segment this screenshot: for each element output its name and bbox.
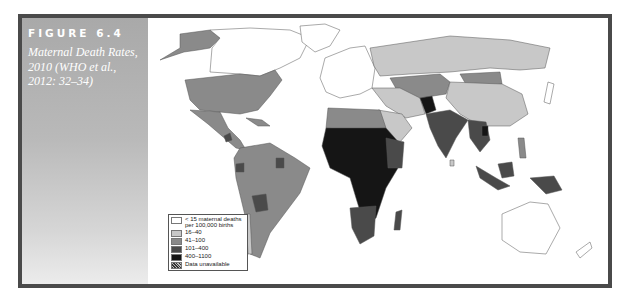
figure-caption: Maternal Death Rates, 2010 (WHO et al., … (28, 45, 146, 89)
region-caribbean (246, 118, 270, 126)
region-ecuador (236, 163, 244, 172)
region-sri-lanka (450, 160, 454, 166)
region-canada (210, 28, 310, 76)
legend-label: 400–1100 (185, 253, 211, 259)
region-madagascar (394, 210, 402, 230)
legend-label: < 15 maternal deaths per 100,000 births (185, 216, 245, 228)
region-australia (502, 202, 560, 254)
region-philippines (518, 138, 526, 158)
region-laos (482, 126, 488, 136)
legend-item: 16–40 (171, 229, 245, 237)
legend-label: Data unavailable (185, 261, 230, 267)
figure-label: FIGURE 6.4 (28, 27, 124, 39)
figure-frame: FIGURE 6.4 Maternal Death Rates, 2010 (W… (18, 14, 612, 288)
legend-label: 41–100 (185, 237, 205, 243)
legend-swatch-dark (171, 246, 182, 253)
region-india (426, 110, 468, 158)
region-guyana (276, 158, 284, 168)
legend-item: < 15 maternal deaths per 100,000 births (171, 216, 245, 229)
figure-sidebar: FIGURE 6.4 Maternal Death Rates, 2010 (W… (22, 18, 148, 284)
region-borneo (498, 162, 514, 178)
legend-item: 41–100 (171, 237, 245, 245)
legend-swatch-medium (171, 238, 182, 245)
region-north-africa (326, 108, 386, 130)
region-new-zealand (576, 242, 592, 258)
region-japan (544, 82, 554, 104)
region-papua (530, 176, 562, 194)
region-europe (320, 46, 375, 98)
region-russia (370, 36, 550, 76)
legend-label: 101–400 (185, 245, 208, 251)
legend-item: 400–1100 (171, 253, 245, 261)
legend-swatch-light (171, 230, 182, 237)
legend-item: Data unavailable (171, 261, 245, 269)
map-legend: < 15 maternal deaths per 100,000 births … (168, 214, 248, 271)
region-alaska (160, 30, 220, 60)
legend-label: 16–40 (185, 229, 202, 235)
legend-swatch-black (171, 254, 182, 261)
region-east-africa (386, 138, 404, 168)
legend-item: 101–400 (171, 245, 245, 253)
region-usa (185, 70, 282, 114)
region-greenland (300, 24, 340, 52)
region-mexico (190, 110, 246, 150)
region-southern-africa (350, 206, 376, 244)
legend-swatch-white (171, 217, 182, 224)
legend-swatch-hatch (171, 262, 182, 269)
